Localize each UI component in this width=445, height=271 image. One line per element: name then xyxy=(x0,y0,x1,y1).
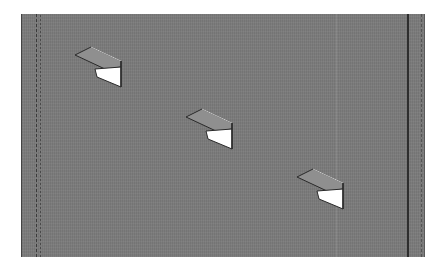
shelf-bracket-2 xyxy=(184,107,254,167)
right-dashed-line xyxy=(421,14,422,257)
left-dashed-line xyxy=(36,14,37,257)
right-dark-line xyxy=(407,14,409,257)
shelf-bracket-3 xyxy=(295,167,365,227)
shelf-bracket-1 xyxy=(73,45,143,105)
left-dashed-line-2 xyxy=(40,14,41,257)
right-edge-line xyxy=(424,14,425,257)
left-edge-line xyxy=(21,14,22,257)
